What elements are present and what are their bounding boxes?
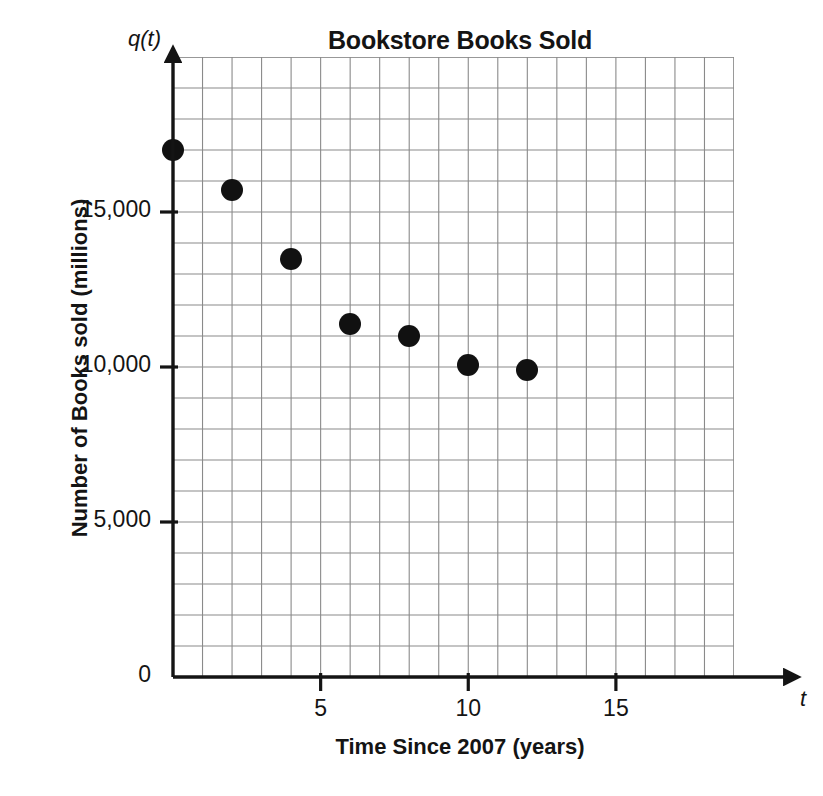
plot-area xyxy=(173,57,734,677)
y-axis-variable-label: q(t) xyxy=(128,26,161,52)
x-axis-title: Time Since 2007 (years) xyxy=(180,734,740,760)
chart-figure: Bookstore Books Sold q(t) t Number of Bo… xyxy=(0,0,823,796)
data-point xyxy=(280,248,302,270)
grid-lines xyxy=(173,57,734,677)
x-axis-tick-label: 10 xyxy=(455,695,481,722)
y-axis-tick-label: 10,000 xyxy=(1,351,151,378)
data-point xyxy=(162,139,184,161)
x-axis-tick-label: 5 xyxy=(314,695,327,722)
x-axis-variable-label: t xyxy=(800,686,806,712)
y-axis-tick-label: 0 xyxy=(1,661,151,688)
data-point xyxy=(516,359,538,381)
y-axis-tick-label: 15,000 xyxy=(1,196,151,223)
data-point xyxy=(398,325,420,347)
chart-title: Bookstore Books Sold xyxy=(180,26,740,55)
data-point xyxy=(457,354,479,376)
data-point xyxy=(339,313,361,335)
data-point xyxy=(221,179,243,201)
x-axis-tick-label: 15 xyxy=(603,695,629,722)
y-axis-tick-label: 5,000 xyxy=(1,506,151,533)
